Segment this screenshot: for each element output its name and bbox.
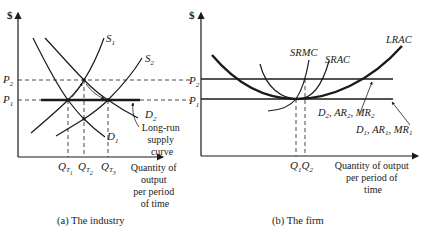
s2-label: S2 [145, 52, 155, 67]
firm-y-axis-label: $ [189, 9, 195, 21]
adjustment-arrow-down [86, 84, 104, 99]
industry-caption: (a) The industry [57, 215, 125, 227]
industry-x-axis-label: Quantity of output per period of time [131, 162, 179, 209]
d2-ar2-mr2-label: D2, AR2, MR2 [317, 107, 375, 120]
firm-caption: (b) The firm [272, 215, 324, 227]
supply-curve-s1 [31, 38, 104, 133]
industry-p1-label: P1 [2, 93, 13, 108]
qt2-label: QT2 [78, 160, 93, 176]
q1-q2-labels: Q1Q2 [290, 159, 313, 174]
srmc-curve [268, 60, 309, 111]
srmc-label: SRMC [290, 47, 318, 58]
lrs-label: Long-run supply curve [142, 122, 182, 157]
figure: $ P2 P1 S1 S2 D2 D1 [0, 0, 426, 237]
firm-panel: $ P2 P1 SRMC SRAC LRAC D2, AR2, MR2 D1, … [188, 9, 418, 227]
industry-y-axis-label: $ [7, 9, 13, 21]
qt1-label: QT1 [58, 160, 73, 176]
lrac-label: LRAC [385, 34, 413, 45]
lrs-pointer-arrow [133, 103, 139, 127]
firm-p1-label: P1 [188, 94, 199, 109]
d1-pointer-arrow [392, 102, 410, 125]
qt3-label: QT3 [101, 160, 116, 176]
firm-p2-label: P2 [188, 74, 200, 89]
d2-label: D2 [144, 108, 157, 123]
demand-curve-d2 [45, 38, 138, 118]
industry-panel: $ P2 P1 S1 S2 D2 D1 [2, 9, 190, 227]
equilibrium-point-3 [106, 98, 110, 102]
srac-label: SRAC [325, 54, 351, 65]
supply-curve-s2 [56, 58, 142, 136]
firm-x-axis-label: Quantity of output per period of time [335, 160, 411, 195]
srac-curve [260, 61, 329, 99]
d1-ar1-mr1-label: D1, AR1, MR1 [355, 124, 412, 137]
equilibrium-point-1 [66, 98, 70, 102]
equilibrium-point-2 [82, 78, 86, 82]
intersection-d1-s2 [82, 117, 85, 120]
industry-p2-label: P2 [2, 73, 14, 88]
s1-label: S1 [106, 32, 115, 47]
